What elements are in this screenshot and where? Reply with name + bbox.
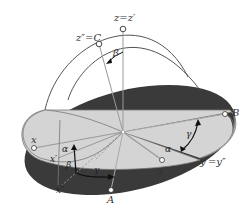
label-gamma-right: γ <box>186 129 192 139</box>
label-alpha-left: α <box>62 144 68 154</box>
label-b: B <box>231 107 239 118</box>
label-x: x <box>31 134 37 145</box>
label-a: A <box>106 194 114 205</box>
label-y: y <box>157 164 164 175</box>
point-y <box>160 158 165 163</box>
label-beta-bottom: β <box>65 160 71 170</box>
point-b <box>223 112 228 117</box>
point-z <box>120 26 126 32</box>
label-x-prime: x′ <box>50 154 57 164</box>
point-origin <box>122 131 124 133</box>
point-x <box>32 146 37 151</box>
beta-top-arrowhead-icon <box>106 58 112 64</box>
label-z-double-prime: z″=C <box>75 32 101 43</box>
label-alpha-right: α <box>165 144 171 154</box>
label-gamma-bottom: γ <box>94 165 100 175</box>
point-a <box>109 188 114 193</box>
label-x-double-prime: x″ <box>56 185 65 195</box>
label-beta-top: β <box>112 47 119 58</box>
euler-angles-diagram: z=z′ z″=C β B x x′ α β γ γ α y y′=y″ x″ … <box>0 0 252 218</box>
label-y-prime-eq: y′=y″ <box>199 156 226 167</box>
label-z-axis: z=z′ <box>113 12 136 23</box>
